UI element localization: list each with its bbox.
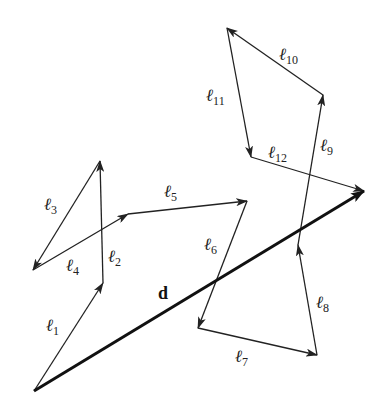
vector-l8-arrow	[298, 245, 317, 355]
vector-l6-arrow	[198, 201, 247, 328]
vector-l1-label: ℓ1	[46, 316, 59, 338]
vector-diagram: ℓ1ℓ2ℓ3ℓ4ℓ5ℓ6ℓ7ℓ8ℓ9ℓ10ℓ11ℓ12d	[0, 0, 385, 405]
vector-l3-arrow	[33, 161, 100, 270]
vector-l11-arrow	[227, 28, 251, 157]
vector-l12-label: ℓ12	[268, 143, 287, 165]
vector-l8-label: ℓ8	[316, 293, 329, 315]
resultant-d-label: d	[158, 283, 168, 303]
vector-l5-label: ℓ5	[164, 182, 177, 204]
vector-l9-label: ℓ9	[320, 136, 333, 158]
vector-l5-arrow	[128, 201, 247, 214]
vector-l4-label: ℓ4	[66, 256, 79, 278]
resultant-group	[34, 191, 364, 391]
vector-l7-arrow	[198, 328, 317, 355]
vector-l7-label: ℓ7	[235, 347, 248, 369]
vector-l1-arrow	[34, 283, 103, 391]
resultant-d-arrow	[34, 191, 364, 391]
vector-l3-label: ℓ3	[44, 195, 57, 217]
vector-l6-label: ℓ6	[204, 235, 217, 257]
vector-l11-label: ℓ11	[206, 86, 225, 108]
vector-l2-arrow	[100, 161, 103, 283]
vector-l2-label: ℓ2	[108, 247, 121, 269]
vector-l10-arrow	[227, 28, 323, 95]
segment-group	[33, 28, 364, 391]
vector-l10-label: ℓ10	[279, 45, 298, 67]
